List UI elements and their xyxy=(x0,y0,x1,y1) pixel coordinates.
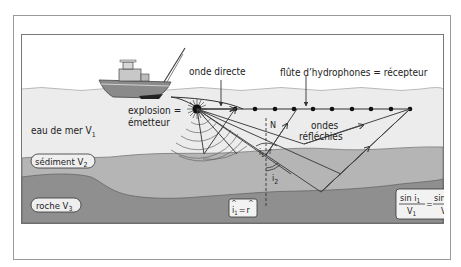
label-onde-directe: onde directe xyxy=(189,66,246,77)
sediment-label: sédiment V2 xyxy=(31,154,95,169)
label-angle-r: r xyxy=(269,147,272,156)
label-explosion: explosion = xyxy=(128,105,181,116)
svg-text:=: = xyxy=(426,199,433,209)
label-normal-n: N xyxy=(270,120,276,130)
reflection-law-box: i1=r ^ ^ xyxy=(229,199,257,217)
svg-text:^: ^ xyxy=(231,199,237,207)
snell-law-box: sin i1 V1 = sin i2 V2 xyxy=(396,189,444,219)
svg-text:^: ^ xyxy=(248,199,254,207)
seismic-reflection-diagram: onde directe flûte d’hydrophones = récep… xyxy=(21,34,444,224)
label-reflechies: réfléchies xyxy=(299,131,343,142)
label-ondes: ondes xyxy=(311,120,338,131)
label-emetteur: émetteur xyxy=(128,117,170,128)
label-flute-hydrophones: flûte d’hydrophones = récepteur xyxy=(280,67,428,78)
rock-label: roche V3 xyxy=(31,198,81,213)
